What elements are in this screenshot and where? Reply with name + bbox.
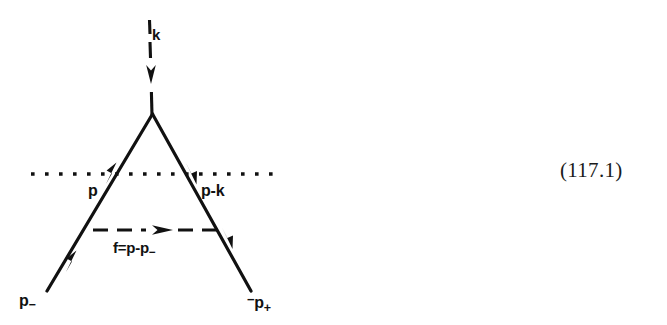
label-exchange-momentum-subscript: −	[149, 245, 155, 258]
figure-page: k p p-k f=p-p− p− −p+ (117.1)	[0, 0, 667, 325]
label-outgoing-positron-p-plus: −p+	[247, 293, 271, 314]
photon-line-k-dash-upper	[150, 20, 151, 34]
fermion-line-left	[47, 114, 153, 291]
photon-line-k-dash-mid	[150, 42, 151, 58]
label-exchange-momentum-base: f=p-p	[113, 239, 149, 256]
exchange-arrowhead-right	[152, 225, 173, 235]
exchange-line-f-group	[93, 225, 219, 235]
photon-arrowhead-down	[146, 65, 156, 84]
fermion-line-right-group	[153, 114, 252, 291]
photon-line-k-dash-lower	[151, 92, 152, 115]
label-right-internal-momentum-p-minus-k: p-k	[201, 183, 224, 199]
label-outgoing-positron-subscript: +	[264, 301, 271, 315]
label-incoming-electron-subscript: −	[29, 298, 36, 312]
label-left-internal-momentum-p: p	[88, 183, 98, 199]
label-incoming-electron-base: p	[19, 292, 29, 309]
label-outgoing-positron-base: p	[254, 294, 264, 311]
label-photon-momentum-k: k	[152, 27, 160, 42]
equation-number: (117.1)	[560, 158, 623, 183]
fermion-line-right	[153, 114, 252, 291]
label-exchange-momentum-f: f=p-p−	[113, 240, 155, 258]
label-incoming-electron-p-minus: p−	[19, 293, 35, 312]
fermion-line-left-group	[47, 114, 153, 291]
